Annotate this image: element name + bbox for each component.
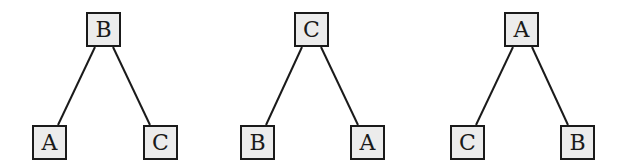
tree2-root-node: C (294, 12, 329, 47)
tree3-right-node: B (560, 125, 595, 160)
edge-tree2-left (266, 47, 302, 125)
tree-diagram: B A C C B A A C B (0, 0, 621, 168)
edge-tree2-right (321, 47, 358, 125)
tree2-left-node: B (240, 125, 275, 160)
tree3-root-node: A (504, 12, 539, 47)
edge-tree1-left (58, 47, 95, 125)
edge-tree1-right (113, 47, 150, 125)
edge-tree3-left (476, 47, 513, 125)
tree1-left-node: A (32, 125, 67, 160)
tree2-right-node: A (350, 125, 385, 160)
edge-tree3-right (532, 47, 568, 125)
tree1-right-node: C (143, 125, 178, 160)
tree1-root-node: B (86, 12, 121, 47)
tree3-left-node: C (450, 125, 485, 160)
